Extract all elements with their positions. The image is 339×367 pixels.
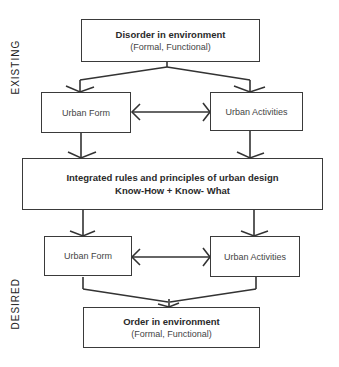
desired-urban-activities-label: Urban Activities [224, 252, 286, 262]
disorder-box: Disorder in environment (Formal, Functio… [81, 19, 260, 62]
desired-urban-activities-box: Urban Activities [210, 236, 300, 277]
disorder-subtitle: (Formal, Functional) [130, 41, 211, 54]
order-box: Order in environment (Formal, Functional… [83, 307, 260, 348]
existing-urban-form-box: Urban Form [41, 92, 131, 133]
integrated-rules-title: Integrated rules and principles of urban… [66, 171, 278, 184]
desired-side-label: DESIRED [10, 280, 21, 330]
existing-urban-activities-box: Urban Activities [210, 92, 303, 131]
desired-urban-form-box: Urban Form [44, 236, 132, 276]
existing-urban-activities-label: Urban Activities [225, 107, 287, 117]
order-subtitle: (Formal, Functional) [131, 328, 212, 341]
order-title: Order in environment [123, 315, 220, 328]
integrated-rules-box: Integrated rules and principles of urban… [22, 158, 323, 210]
integrated-rules-subtitle: Know-How + Know- What [115, 184, 230, 197]
existing-side-label: EXISTING [10, 45, 21, 95]
existing-urban-form-label: Urban Form [62, 108, 110, 118]
desired-urban-form-label: Urban Form [64, 251, 112, 261]
disorder-title: Disorder in environment [116, 28, 226, 41]
